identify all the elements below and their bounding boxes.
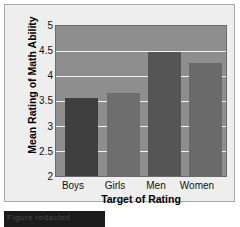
caption-text: Figure redacted (7, 213, 71, 222)
chart-panel: 5 4.5 4 3.5 3 2.5 2 Boys Girls Men Women… (4, 4, 235, 202)
bar-men (148, 52, 181, 176)
bar-girls (107, 93, 140, 176)
y-axis-title: Mean Rating of Math Ability (26, 10, 38, 160)
x-tick-label-women: Women (171, 180, 223, 191)
bar-women (189, 63, 222, 176)
gridline (56, 51, 226, 52)
x-axis-title: Target of Rating (55, 193, 227, 205)
plot-area (55, 25, 227, 177)
bar-boys (65, 98, 98, 176)
caption-strip: Figure redacted (4, 211, 105, 227)
figure-container: 5 4.5 4 3.5 3 2.5 2 Boys Girls Men Women… (0, 0, 240, 227)
